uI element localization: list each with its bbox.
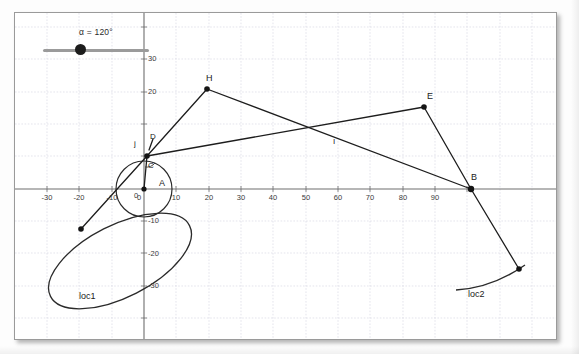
- locus-label-loc1: loc1: [79, 291, 96, 301]
- graphics-view[interactable]: -30 -20 -10 0 10 20 30 40 50 60 70 80 90…: [15, 13, 556, 339]
- y-tick-label: -10: [148, 216, 159, 225]
- scan-edge-shadow-bottom: [0, 346, 579, 354]
- y-tick-label-zero: 0: [134, 191, 138, 200]
- scan-edge-shadow-right: [571, 0, 579, 354]
- alpha-slider-knob[interactable]: [75, 44, 86, 55]
- point-H: [204, 86, 210, 92]
- point-label-A: A: [159, 178, 165, 188]
- point-label-D: D: [150, 132, 156, 141]
- alpha-slider-label: α = 120°: [41, 27, 151, 37]
- segment-B-locus2: [471, 189, 519, 269]
- point-label-j: j: [134, 139, 136, 148]
- alpha-slider[interactable]: α = 120°: [41, 27, 151, 61]
- x-tick-label: 10: [172, 193, 180, 202]
- geogebra-app: -30 -20 -10 0 10 20 30 40 50 60 70 80 90…: [0, 0, 579, 354]
- x-tick-label: 80: [399, 193, 407, 202]
- x-tick-label: -10: [107, 193, 118, 202]
- segment-C-E: [147, 107, 424, 156]
- x-tick-label: 60: [334, 193, 342, 202]
- alpha-slider-track[interactable]: [43, 49, 149, 52]
- point-A: [141, 186, 146, 191]
- x-tick-label: -30: [42, 193, 53, 202]
- point-label-H: H: [206, 73, 213, 83]
- point-C: [144, 153, 150, 159]
- locus-curve-loc1: [34, 194, 206, 329]
- point-locus2: [516, 266, 522, 272]
- x-tick-label: 50: [302, 193, 310, 202]
- segment-C-H: [147, 89, 207, 156]
- point-locus1: [78, 226, 84, 232]
- point-B: [468, 186, 474, 192]
- segment-E-B: [424, 107, 471, 189]
- point-E: [421, 104, 427, 110]
- y-tick-label: 20: [148, 87, 156, 96]
- y-tick-label: -20: [148, 249, 159, 258]
- x-tick-label: 70: [366, 193, 374, 202]
- axis-ticks: [47, 27, 467, 318]
- point-label-C: C: [148, 161, 154, 170]
- linkage-segments: [81, 89, 519, 269]
- applet-frame: -30 -20 -10 0 10 20 30 40 50 60 70 80 90…: [14, 12, 557, 340]
- x-tick-label: -20: [74, 193, 85, 202]
- x-tick-label: 30: [237, 193, 245, 202]
- x-tick-label: 20: [205, 193, 213, 202]
- x-tick-label: 90: [431, 193, 439, 202]
- point-label-E: E: [427, 91, 433, 101]
- point-label-B: B: [471, 172, 477, 182]
- x-tick-label: 40: [269, 193, 277, 202]
- point-label-I: I: [333, 137, 335, 146]
- y-tick-label: -30: [148, 281, 159, 290]
- locus-label-loc2: loc2: [468, 289, 485, 299]
